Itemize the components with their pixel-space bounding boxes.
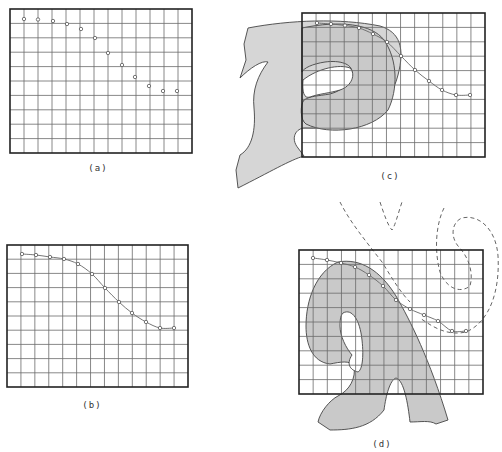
dashed-s-loop: [420, 208, 498, 333]
data-point: [464, 329, 467, 332]
data-point: [117, 300, 120, 303]
data-point: [357, 26, 360, 29]
data-point: [427, 79, 430, 82]
data-point: [158, 326, 161, 329]
fitted-curve: [22, 254, 174, 328]
data-point: [62, 257, 65, 260]
data-point: [367, 273, 370, 276]
panel-label-b: (b): [82, 400, 101, 410]
data-point: [172, 326, 175, 329]
data-point: [79, 27, 82, 30]
data-point: [381, 284, 384, 287]
data-point: [399, 54, 402, 57]
data-point: [436, 319, 439, 322]
data-point: [133, 75, 136, 78]
data-point: [394, 298, 397, 301]
panel-b: [7, 245, 188, 387]
data-point: [22, 17, 25, 20]
grid-lines: [10, 9, 192, 153]
data-point: [315, 21, 318, 24]
data-point: [147, 84, 150, 87]
data-point: [343, 24, 346, 27]
data-point: [120, 63, 123, 66]
data-point: [20, 252, 23, 255]
data-point: [65, 22, 68, 25]
panel-label-c: (c): [380, 171, 399, 181]
data-point: [450, 329, 453, 332]
data-point: [339, 261, 342, 264]
data-point: [48, 255, 51, 258]
panel-c-shapes: [236, 21, 401, 188]
data-point: [90, 272, 93, 275]
data-point: [413, 68, 416, 71]
data-point: [422, 313, 425, 316]
figure-canvas: (a)(b)(c)(d): [0, 0, 502, 452]
panel-a: [10, 9, 192, 153]
data-point: [408, 307, 411, 310]
data-point: [161, 89, 164, 92]
data-point: [76, 262, 79, 265]
data-point: [103, 286, 106, 289]
data-point: [36, 18, 39, 21]
panel-label-d: (d): [372, 439, 391, 449]
panel-label-a: (a): [88, 163, 107, 173]
data-point: [93, 36, 96, 39]
data-point: [454, 93, 457, 96]
data-point: [325, 258, 328, 261]
data-point: [311, 256, 314, 259]
data-point: [175, 89, 178, 92]
data-point: [468, 93, 471, 96]
data-point: [385, 40, 388, 43]
dashed-v-shape: [380, 202, 402, 230]
data-point: [106, 51, 109, 54]
data-point: [130, 311, 133, 314]
grid-lines: [7, 245, 188, 387]
data-point: [371, 32, 374, 35]
data-point: [353, 265, 356, 268]
data-point: [329, 22, 332, 25]
data-point: [51, 19, 54, 22]
data-point: [34, 253, 37, 256]
data-point: [440, 88, 443, 91]
data-point: [144, 320, 147, 323]
